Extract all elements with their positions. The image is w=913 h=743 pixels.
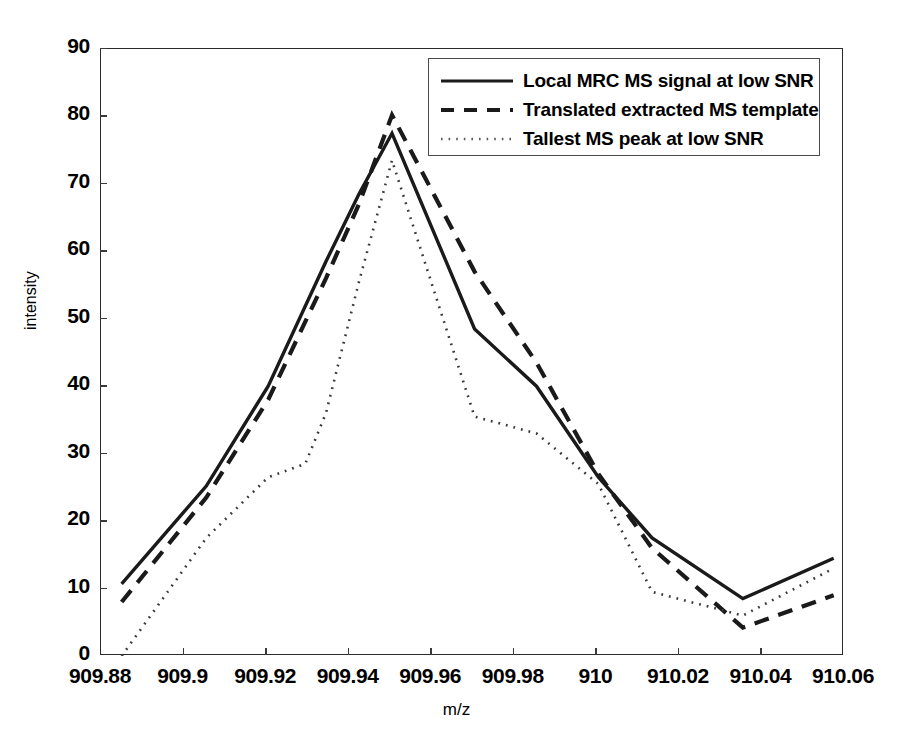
legend-label-2: Tallest MS peak at low SNR (523, 128, 763, 150)
legend-label-1: Translated extracted MS template (523, 99, 819, 121)
series-layer (122, 115, 834, 656)
y-tick-label-9: 90 (67, 34, 90, 58)
x-tick-mark-8 (760, 648, 761, 655)
y-tick-label-4: 40 (67, 371, 90, 395)
y-tick-label-5: 50 (67, 304, 90, 328)
x-tick-label-9: 910.06 (783, 664, 903, 688)
x-tick-mark-1 (183, 648, 184, 655)
x-tick-mark-5 (513, 648, 514, 655)
y-tick-label-3: 30 (67, 439, 90, 463)
y-tick-mark-2 (100, 520, 107, 521)
y-tick-mark-7 (100, 183, 107, 184)
y-tick-mark-9 (100, 48, 107, 49)
y-tick-label-6: 60 (67, 236, 90, 260)
legend-item-2: Tallest MS peak at low SNR (439, 124, 809, 153)
y-tick-label-7: 70 (67, 169, 90, 193)
y-tick-mark-1 (100, 588, 107, 589)
x-axis-label: m/z (0, 700, 913, 720)
y-tick-label-1: 10 (67, 574, 90, 598)
y-tick-mark-6 (100, 250, 107, 251)
legend-item-1: Translated extracted MS template (439, 95, 809, 124)
y-tick-mark-3 (100, 453, 107, 454)
legend-swatch-dotted (439, 132, 515, 146)
series-line-2 (122, 160, 834, 656)
y-tick-mark-4 (100, 385, 107, 386)
legend-swatch-dashed (439, 103, 515, 117)
y-tick-label-8: 80 (67, 101, 90, 125)
legend-item-0: Local MRC MS signal at low SNR (439, 66, 809, 95)
series-line-0 (122, 133, 834, 598)
x-tick-mark-6 (595, 648, 596, 655)
x-tick-mark-4 (430, 648, 431, 655)
x-tick-mark-7 (678, 648, 679, 655)
legend-label-0: Local MRC MS signal at low SNR (523, 70, 814, 92)
y-tick-label-0: 0 (79, 641, 90, 665)
y-tick-label-2: 20 (67, 506, 90, 530)
legend-swatch-solid (439, 74, 515, 88)
y-tick-mark-5 (100, 318, 107, 319)
x-tick-mark-2 (265, 648, 266, 655)
y-axis-label: intensity (22, 271, 40, 330)
figure-root: 0102030405060708090 909.88909.9909.92909… (0, 0, 913, 743)
series-line-1 (122, 115, 834, 628)
x-tick-mark-3 (348, 648, 349, 655)
y-tick-mark-8 (100, 115, 107, 116)
legend-box: Local MRC MS signal at low SNR Translate… (428, 58, 820, 156)
